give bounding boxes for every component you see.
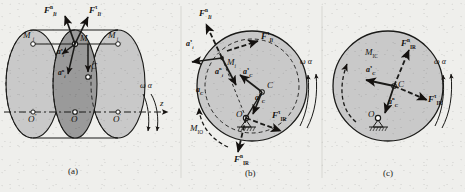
label-a-in-a: ani <box>58 69 65 77</box>
point-c-a <box>86 75 91 80</box>
label-c-a: C <box>91 62 97 71</box>
label-omega-alpha-a: ω α <box>140 82 152 90</box>
label-omega-alpha-c: ω α <box>434 58 446 66</box>
label-a-c-b: aC <box>196 86 203 94</box>
label-f-it-b: FτIi <box>261 32 273 41</box>
label-f-in-a: FnIi <box>44 6 57 15</box>
label-o-prime-a: O′ <box>113 115 121 124</box>
label-f-in-b: FnIi <box>199 9 212 18</box>
label-f-irn-c: FnIR <box>401 39 416 48</box>
panel-b-graphics <box>192 6 322 178</box>
label-f-irn-b: FnIR <box>234 155 249 164</box>
label-a-cn-c: anC <box>388 98 398 106</box>
disc-b <box>197 31 307 141</box>
panel-caption-a: (a) <box>68 166 78 176</box>
panel-c-graphics <box>333 31 452 141</box>
label-a-in-b: ani <box>215 68 223 76</box>
label-a-ct-c: aτC <box>366 66 375 74</box>
point-m-i-double-prime <box>31 42 36 47</box>
label-c-b: C <box>267 81 273 90</box>
panel-caption-b: (b) <box>245 168 256 178</box>
label-axis-z-a: z <box>160 99 164 108</box>
label-o-c: O <box>368 110 375 119</box>
label-f-it-a: FτIi <box>89 6 101 15</box>
label-o-b: O <box>236 110 243 119</box>
label-c-c: C <box>398 80 404 89</box>
panel-caption-c: (c) <box>383 168 393 178</box>
label-m-i-prime-a: M′i <box>108 31 118 40</box>
label-o-double-prime-a: O″ <box>28 115 37 124</box>
point-m-i-prime <box>116 42 121 47</box>
mechanics-figure <box>0 0 465 192</box>
label-f-irt-b: FτIR <box>272 111 286 120</box>
label-a-ct-b: aτC <box>243 68 252 76</box>
label-a-it-b: aτi <box>186 40 193 48</box>
disc-c <box>333 31 443 141</box>
label-f-irt-c: FτIR <box>428 95 442 104</box>
label-a-cn-b: anC <box>255 94 265 102</box>
label-m-i-b: Mi <box>227 58 236 67</box>
label-m-ic-c: MIC <box>365 48 378 57</box>
label-a-it-a: aτi <box>57 48 64 56</box>
label-m-io-b: MIO <box>190 124 203 133</box>
label-o-a: O <box>71 115 78 124</box>
label-omega-alpha-b: ω α <box>300 58 312 66</box>
label-m-i-a: Mi <box>80 34 89 43</box>
label-m-i-double-prime-a: M″i <box>23 31 34 40</box>
